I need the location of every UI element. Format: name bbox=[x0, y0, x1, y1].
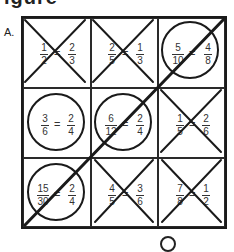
cropped-glyph bbox=[160, 236, 176, 252]
x-mark-icon bbox=[161, 90, 221, 152]
x-mark-icon bbox=[95, 160, 153, 222]
x-mark-icon bbox=[25, 20, 85, 82]
x-mark-icon bbox=[93, 20, 153, 82]
o-mark-icon bbox=[162, 22, 218, 78]
o-mark-icon bbox=[28, 94, 84, 150]
x-mark-icon bbox=[162, 160, 221, 222]
